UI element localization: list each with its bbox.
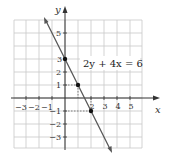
y-tick-label: 2 [56,68,61,77]
y-tick-label: 5 [56,29,61,38]
line-arrow-down-icon [108,146,113,153]
coordinate-plane: x y −3 −2 −1 2 3 4 5 5 3 2 1 −1 −2 −3 [0,0,172,155]
line-arrow-up-icon [44,17,49,24]
equation-label: 2y + 4x = 6 [83,58,143,69]
y-tick-label: −1 [49,107,61,116]
x-tick-label: 4 [115,102,120,111]
y-tick-label: −2 [49,120,61,129]
x-tick-label: 3 [102,102,107,111]
y-tick-label: −3 [49,133,61,142]
x-tick-label: −3 [15,103,27,112]
point-1-1 [76,83,80,87]
y-axis-label: y [54,4,61,15]
x-axis-arrow-icon [153,96,160,101]
x-tick-label: 5 [128,102,133,111]
point-2-neg1 [89,109,93,113]
y-axis-arrow-icon [63,6,68,13]
point-0-3 [63,57,67,61]
y-tick-label: 3 [57,55,62,64]
x-axis-label: x [155,104,161,115]
x-tick-label: −2 [28,103,40,112]
x-tick-labels: −3 −2 −1 2 3 4 5 [15,102,133,112]
y-tick-label: 1 [56,81,61,90]
